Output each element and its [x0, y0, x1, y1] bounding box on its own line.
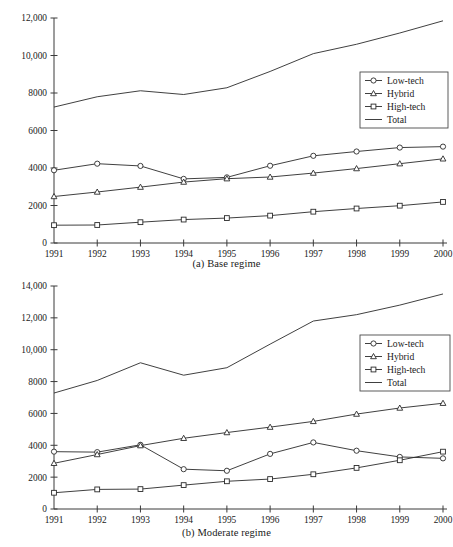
data-point-marker-high-tech: [311, 472, 316, 477]
data-point-marker-low-tech: [268, 451, 273, 456]
legend-label-total: Total: [387, 377, 407, 388]
data-point-marker-legend-high-tech: [371, 104, 376, 109]
legend-label-low-tech: Low-tech: [387, 75, 424, 86]
chart-panel-moderate-regime: 0200040006000800010,00012,00014,00019911…: [0, 268, 453, 547]
data-point-marker-high-tech: [397, 203, 402, 208]
figure-two-line-charts: 0200040006000800010,00012,00019911992199…: [0, 0, 453, 547]
y-tick-label: 4000: [28, 441, 47, 451]
data-point-marker-legend-low-tech: [371, 78, 376, 83]
legend-label-high-tech: High-tech: [387, 101, 426, 112]
x-tick-label: 1995: [218, 515, 237, 525]
data-point-marker-high-tech: [268, 213, 273, 218]
data-point-marker-high-tech: [52, 490, 57, 495]
data-point-marker-high-tech: [52, 223, 57, 228]
series-hybrid: [51, 156, 446, 199]
legend-label-hybrid: Hybrid: [387, 88, 414, 99]
data-point-marker-high-tech: [397, 458, 402, 463]
x-tick-label: 1993: [131, 515, 150, 525]
series-high-tech: [52, 449, 446, 495]
data-point-marker-high-tech: [138, 220, 143, 225]
data-point-marker-low-tech: [311, 440, 316, 445]
data-point-marker-high-tech: [441, 449, 446, 454]
x-tick-label: 2000: [434, 515, 453, 525]
series-line-high-tech: [54, 202, 443, 225]
y-tick-label: 2000: [28, 201, 47, 211]
series-line-low-tech: [54, 147, 443, 179]
data-point-marker-low-tech: [51, 449, 56, 454]
data-point-marker-high-tech: [95, 223, 100, 228]
data-point-marker-low-tech: [181, 467, 186, 472]
legend-label-hybrid: Hybrid: [387, 351, 414, 362]
series-line-low-tech: [54, 442, 443, 470]
series-line-high-tech: [54, 452, 443, 493]
data-point-marker-high-tech: [311, 209, 316, 214]
y-tick-label: 10,000: [21, 51, 47, 61]
y-tick-label: 2000: [28, 473, 47, 483]
data-point-marker-high-tech: [268, 477, 273, 482]
data-point-marker-legend-low-tech: [371, 341, 376, 346]
data-point-marker-low-tech: [440, 456, 445, 461]
data-point-marker-low-tech: [354, 448, 359, 453]
data-point-marker-low-tech: [268, 163, 273, 168]
y-tick-label: 10,000: [21, 345, 47, 355]
data-point-marker-hybrid: [440, 156, 446, 161]
series-line-hybrid: [54, 403, 443, 463]
legend-label-low-tech: Low-tech: [387, 338, 424, 349]
y-tick-label: 0: [42, 238, 47, 248]
series-low-tech: [51, 144, 445, 181]
data-point-marker-high-tech: [138, 487, 143, 492]
y-tick-label: 12,000: [21, 13, 47, 23]
data-point-marker-low-tech: [224, 468, 229, 473]
data-point-marker-high-tech: [354, 206, 359, 211]
data-point-marker-low-tech: [95, 161, 100, 166]
series-hybrid: [51, 400, 446, 465]
legend-label-high-tech: High-tech: [387, 364, 426, 375]
data-point-marker-high-tech: [181, 217, 186, 222]
legend-label-total: Total: [387, 114, 407, 125]
line-chart-moderate-regime: 0200040006000800010,00012,00014,00019911…: [0, 268, 453, 547]
x-tick-label: 1998: [347, 515, 366, 525]
data-point-marker-low-tech: [138, 163, 143, 168]
x-tick-label: 1999: [390, 515, 409, 525]
series-high-tech: [52, 200, 446, 228]
y-tick-label: 8000: [28, 377, 47, 387]
caption-moderate-regime: (b) Moderate regime: [0, 527, 453, 538]
x-tick-label: 1991: [45, 515, 64, 525]
data-point-marker-low-tech: [51, 168, 56, 173]
y-tick-label: 14,000: [21, 281, 47, 291]
x-tick-label: 1997: [304, 515, 323, 525]
chart-legend: Low-techHybridHigh-techTotal: [360, 335, 450, 391]
chart-panel-base-regime: 0200040006000800010,00012,00019911992199…: [0, 0, 453, 277]
data-point-marker-low-tech: [354, 149, 359, 154]
data-point-marker-low-tech: [311, 153, 316, 158]
chart-legend: Low-techHybridHigh-techTotal: [360, 72, 448, 128]
data-point-marker-high-tech: [354, 466, 359, 471]
y-tick-label: 4000: [28, 163, 47, 173]
y-tick-label: 12,000: [21, 313, 47, 323]
x-tick-label: 1994: [174, 515, 193, 525]
y-tick-label: 6000: [28, 126, 47, 136]
data-point-marker-high-tech: [95, 487, 100, 492]
data-point-marker-high-tech: [181, 483, 186, 488]
data-point-marker-high-tech: [224, 479, 229, 484]
data-point-marker-high-tech: [224, 216, 229, 221]
data-point-marker-low-tech: [397, 145, 402, 150]
x-tick-label: 1992: [88, 515, 107, 525]
y-tick-label: 0: [42, 504, 47, 514]
y-tick-label: 8000: [28, 88, 47, 98]
data-point-marker-high-tech: [441, 200, 446, 205]
line-chart-base-regime: 0200040006000800010,00012,00019911992199…: [0, 0, 453, 277]
data-point-marker-hybrid: [440, 400, 446, 405]
data-point-marker-low-tech: [440, 144, 445, 149]
data-point-marker-legend-high-tech: [371, 367, 376, 372]
x-tick-label: 1996: [261, 515, 280, 525]
y-tick-label: 6000: [28, 409, 47, 419]
series-low-tech: [51, 440, 445, 474]
